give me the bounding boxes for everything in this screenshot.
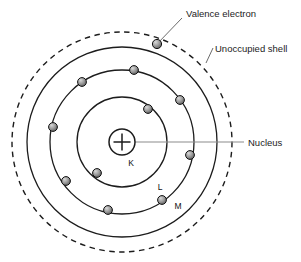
valence-electron-label: Valence electron <box>186 8 256 19</box>
electron-l-6 <box>62 177 71 186</box>
electron-l-3 <box>176 96 185 105</box>
atom-diagram-canvas: K L M Valence electron Unoccupied shell … <box>0 0 301 262</box>
shell-label-k: K <box>128 158 134 168</box>
unoccupied-shell-leader-line <box>206 48 213 63</box>
electron-l-2 <box>78 78 87 87</box>
electron-k-1 <box>144 105 153 114</box>
electron-l-8 <box>158 196 167 205</box>
electron-l-4 <box>49 123 58 132</box>
unoccupied-shell-label: Unoccupied shell <box>215 43 287 54</box>
electron-l-5 <box>186 151 195 160</box>
atom-shell-diagram: K L M Valence electron Unoccupied shell … <box>0 0 301 262</box>
electron-m-valence <box>152 39 161 48</box>
electron-l-1 <box>130 66 139 75</box>
valence-electron-leader-line <box>157 18 182 44</box>
shell-label-l: L <box>158 182 163 192</box>
electron-l-7 <box>104 206 113 215</box>
nucleus-label: Nucleus <box>248 137 283 148</box>
shell-label-m: M <box>174 201 181 211</box>
electron-k-2 <box>93 169 102 178</box>
